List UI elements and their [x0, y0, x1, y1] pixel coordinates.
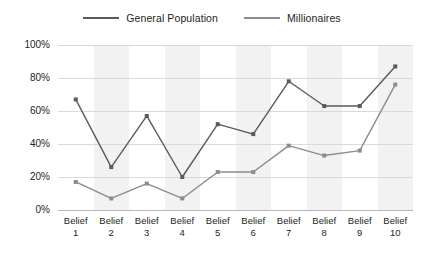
legend-item-general-population[interactable]: General Population: [83, 12, 218, 24]
chart-container: General Population Millionaires 0%20%40%…: [0, 0, 424, 263]
legend-swatch-general-population: [83, 17, 119, 19]
x-tick-line1: Belief: [383, 215, 407, 226]
x-tick-line1: Belief: [135, 215, 159, 226]
x-tick-label-7: Belief7: [277, 215, 301, 239]
x-tick-line1: Belief: [348, 215, 372, 226]
data-point-marker[interactable]: [145, 114, 149, 118]
y-tick-label-40%: 40%: [0, 139, 50, 149]
x-tick-line1: Belief: [170, 215, 194, 226]
x-tick-label-2: Belief2: [99, 215, 123, 239]
data-point-marker[interactable]: [109, 165, 113, 169]
data-point-marker[interactable]: [145, 182, 149, 186]
data-point-marker[interactable]: [287, 79, 291, 83]
x-tick-line2: 9: [348, 227, 372, 239]
series-general-population: [74, 64, 398, 179]
x-tick-line2: 1: [64, 227, 88, 239]
series-millionaires: [74, 83, 398, 201]
x-tick-line1: Belief: [277, 215, 301, 226]
x-tick-line2: 10: [383, 227, 407, 239]
x-tick-label-5: Belief5: [206, 215, 230, 239]
legend-swatch-millionaires: [244, 17, 280, 19]
data-point-marker[interactable]: [393, 83, 397, 87]
legend-label-general-population: General Population: [126, 12, 218, 24]
data-point-marker[interactable]: [216, 122, 220, 126]
x-axis-labels: Belief1Belief2Belief3Belief4Belief5Belie…: [58, 215, 413, 255]
x-tick-line1: Belief: [312, 215, 336, 226]
data-point-marker[interactable]: [322, 154, 326, 158]
data-point-marker[interactable]: [109, 196, 113, 200]
plot-area: [58, 45, 413, 210]
legend-item-millionaires[interactable]: Millionaires: [244, 12, 341, 24]
x-tick-label-4: Belief4: [170, 215, 194, 239]
x-tick-label-1: Belief1: [64, 215, 88, 239]
x-tick-line1: Belief: [241, 215, 265, 226]
x-tick-line2: 4: [170, 227, 194, 239]
x-tick-line2: 8: [312, 227, 336, 239]
x-tick-line1: Belief: [99, 215, 123, 226]
x-tick-line2: 7: [277, 227, 301, 239]
y-tick-label-0%: 0%: [0, 205, 50, 215]
x-tick-line1: Belief: [206, 215, 230, 226]
data-point-marker[interactable]: [74, 180, 78, 184]
series-layer: [58, 45, 413, 210]
data-point-marker[interactable]: [358, 149, 362, 153]
y-tick-label-60%: 60%: [0, 106, 50, 116]
x-tick-label-8: Belief8: [312, 215, 336, 239]
x-tick-label-10: Belief10: [383, 215, 407, 239]
data-point-marker[interactable]: [322, 104, 326, 108]
x-tick-label-6: Belief6: [241, 215, 265, 239]
series-line: [76, 66, 396, 177]
data-point-marker[interactable]: [74, 97, 78, 101]
data-point-marker[interactable]: [251, 132, 255, 136]
data-point-marker[interactable]: [180, 175, 184, 179]
y-axis-labels: 0%20%40%60%80%100%: [0, 45, 50, 210]
data-point-marker[interactable]: [251, 170, 255, 174]
x-tick-line2: 6: [241, 227, 265, 239]
x-tick-line2: 5: [206, 227, 230, 239]
x-tick-line1: Belief: [64, 215, 88, 226]
series-line: [76, 85, 396, 199]
x-tick-line2: 2: [99, 227, 123, 239]
legend-label-millionaires: Millionaires: [287, 12, 341, 24]
y-tick-label-80%: 80%: [0, 73, 50, 83]
x-tick-label-3: Belief3: [135, 215, 159, 239]
data-point-marker[interactable]: [287, 144, 291, 148]
data-point-marker[interactable]: [358, 104, 362, 108]
data-point-marker[interactable]: [216, 170, 220, 174]
y-tick-label-20%: 20%: [0, 172, 50, 182]
chart-legend: General Population Millionaires: [0, 12, 424, 24]
data-point-marker[interactable]: [393, 64, 397, 68]
gridline-0: [58, 210, 413, 211]
data-point-marker[interactable]: [180, 196, 184, 200]
x-tick-line2: 3: [135, 227, 159, 239]
y-tick-label-100%: 100%: [0, 40, 50, 50]
x-tick-label-9: Belief9: [348, 215, 372, 239]
